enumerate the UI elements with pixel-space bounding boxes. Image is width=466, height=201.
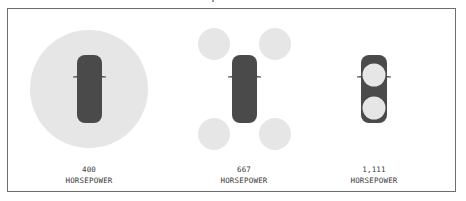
horsepower-value: 667	[194, 164, 294, 175]
power-circle	[363, 64, 386, 87]
horsepower-unit: HORSEPOWER	[39, 175, 139, 186]
horsepower-value: 1,111	[324, 164, 424, 175]
panel-667	[198, 28, 291, 150]
panel-label-400: 400 HORSEPOWER	[39, 164, 139, 186]
panel-400	[30, 30, 148, 148]
panel-label-1111: 1,111 HORSEPOWER	[324, 164, 424, 186]
horsepower-unit: HORSEPOWER	[194, 175, 294, 186]
panel-1111	[357, 55, 391, 123]
car-icon	[228, 55, 261, 123]
horsepower-unit: HORSEPOWER	[324, 175, 424, 186]
power-circle	[259, 28, 291, 60]
power-circle	[198, 118, 230, 150]
car-icon	[73, 55, 106, 123]
panel-label-667: 667 HORSEPOWER	[194, 164, 294, 186]
horsepower-value: 400	[39, 164, 139, 175]
power-circle	[363, 97, 386, 120]
power-circle	[259, 118, 291, 150]
power-circle	[198, 28, 230, 60]
